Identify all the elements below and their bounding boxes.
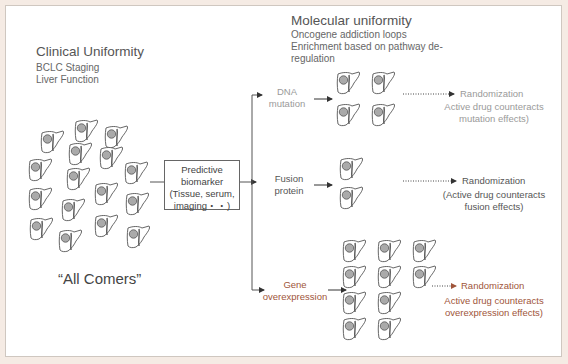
liver-tumor-icon — [338, 185, 364, 211]
liver-tumor-icon — [93, 181, 119, 207]
note-gene-line-1: Active drug counteracts — [438, 295, 550, 307]
liver-tumor-icon — [39, 129, 65, 155]
liver-tumor-icon — [376, 238, 402, 264]
liver-tumor-icon — [60, 197, 86, 223]
liver-tumor-icon — [98, 145, 124, 171]
note-fusion: (Active drug counteracts fusion effects) — [438, 189, 550, 213]
liver-tumor-icon — [124, 191, 150, 217]
liver-tumor-icon — [65, 166, 91, 192]
liver-tumor-icon — [341, 264, 367, 290]
liver-tumor-icon — [411, 238, 437, 264]
gene-label-line-1: Gene — [260, 279, 330, 291]
note-fusion-line-2: fusion effects) — [438, 201, 550, 213]
randomization-gene: Randomization — [461, 280, 524, 292]
liver-tumor-icon — [376, 316, 402, 342]
biomarker-line-3: (Tissue, serum, — [165, 188, 239, 200]
liver-tumor-icon — [27, 157, 53, 183]
liver-tumor-icon — [123, 160, 149, 186]
dna-label-line-2: mutation — [264, 98, 310, 110]
note-dna-line-1: Active drug counteracts — [438, 101, 550, 113]
randomization-fusion: Randomization — [462, 175, 525, 187]
note-dna-line-2: mutation effects) — [438, 113, 550, 125]
randomization-dna: Randomization — [460, 88, 523, 100]
branch-gene-overexpression-label: Gene overexpression — [260, 279, 330, 303]
biomarker-line-1: Predictive — [165, 164, 239, 176]
liver-tumor-icon — [335, 102, 361, 128]
dna-label-line-1: DNA — [264, 86, 310, 98]
branch-fusion-protein-label: Fusion protein — [266, 173, 312, 197]
note-gene-line-2: overexpression effects) — [438, 307, 550, 319]
liver-tumor-icon — [411, 264, 437, 290]
predictive-biomarker-box: Predictive biomarker (Tissue, serum, ima… — [164, 160, 240, 210]
note-gene: Active drug counteracts overexpression e… — [438, 295, 550, 319]
note-dna: Active drug counteracts mutation effects… — [438, 101, 550, 125]
liver-tumor-icon — [27, 186, 53, 212]
liver-tumor-icon — [57, 228, 83, 254]
gene-label-line-2: overexpression — [260, 291, 330, 303]
liver-tumor-icon — [376, 264, 402, 290]
liver-tumor-icon — [370, 102, 396, 128]
liver-tumor-icon — [338, 156, 364, 182]
biomarker-line-2: biomarker — [165, 176, 239, 188]
biomarker-line-4: imaging・・) — [165, 200, 239, 212]
branch-dna-mutation-label: DNA mutation — [264, 86, 310, 110]
liver-tumor-icon — [125, 224, 151, 250]
liver-tumor-icon — [341, 290, 367, 316]
liver-tumor-icon — [93, 213, 119, 239]
liver-tumor-icon — [341, 238, 367, 264]
liver-tumor-icon — [376, 290, 402, 316]
liver-tumor-icon — [67, 141, 93, 167]
fusion-label-line-2: protein — [266, 185, 312, 197]
fusion-label-line-1: Fusion — [266, 173, 312, 185]
liver-tumor-icon — [335, 70, 361, 96]
note-fusion-line-1: (Active drug counteracts — [438, 189, 550, 201]
liver-tumor-icon — [341, 316, 367, 342]
liver-tumor-icon — [28, 216, 54, 242]
liver-tumor-icon — [370, 70, 396, 96]
